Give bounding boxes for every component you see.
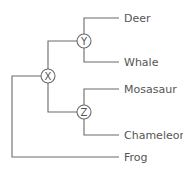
branch-x-y <box>48 41 77 69</box>
leaf-mosasaur: Mosasaur <box>124 83 177 96</box>
cladogram: X Y Z Deer Whale Mosasaur Chameleon Frog <box>0 0 183 172</box>
branch-x-z <box>48 83 77 112</box>
node-x: X <box>41 69 55 83</box>
node-z-label: Z <box>81 107 88 118</box>
branch-z-chameleon <box>84 119 119 135</box>
branch-y-deer <box>84 18 119 34</box>
leaf-whale: Whale <box>124 56 159 69</box>
node-y-label: Y <box>80 36 88 47</box>
branch-frog <box>12 76 119 157</box>
node-y: Y <box>77 34 91 48</box>
leaf-chameleon: Chameleon <box>124 129 183 142</box>
node-x-label: X <box>45 71 52 82</box>
leaf-deer: Deer <box>124 12 151 25</box>
branch-y-whale <box>84 48 119 62</box>
node-z: Z <box>77 105 91 119</box>
branch-z-mosasaur <box>84 89 119 105</box>
leaf-frog: Frog <box>124 151 148 164</box>
